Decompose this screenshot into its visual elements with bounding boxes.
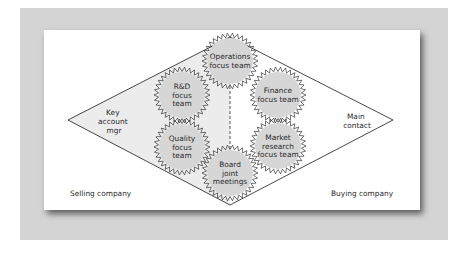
team-label: Operationsfocus team	[209, 52, 250, 70]
gear-market-research: Marketresearchfocus team	[250, 118, 306, 174]
team-label: R&Dfocusteam	[172, 82, 192, 108]
selling-side-fill	[68, 37, 230, 205]
selling-company-label: Selling company	[70, 189, 132, 198]
gear-finance: Financefocus team	[250, 67, 306, 123]
relationship-diagram: Operationsfocus teamR&DfocusteamFinancef…	[0, 0, 466, 254]
main-contact-label: Main contact	[343, 112, 371, 130]
buying-company-label: Buying company	[331, 189, 394, 198]
